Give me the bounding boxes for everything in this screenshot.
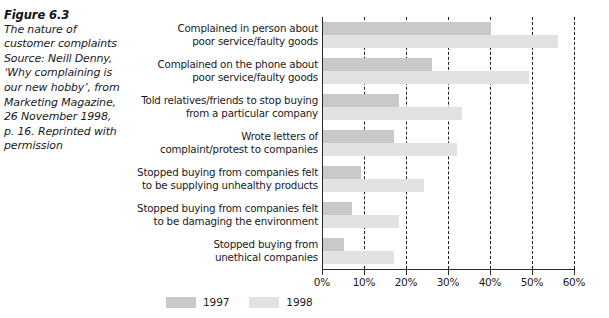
bar-1997 [323, 130, 394, 143]
bar-1998 [323, 251, 394, 264]
category-label-line: Stopped buying from companies felt [137, 166, 318, 179]
bar-1997 [323, 58, 432, 71]
category-label-line: from a particular company [186, 107, 318, 120]
category-label-line: poor service/faulty goods [192, 71, 318, 84]
bar-group [323, 161, 574, 197]
bar-group [323, 233, 574, 269]
x-axis-tick-label: 20% [395, 276, 418, 288]
x-axis-tick [532, 269, 533, 275]
bar-series-container [323, 17, 574, 269]
legend-item-1997: 1997 [166, 296, 229, 308]
category-axis-labels: Complained in person about poor service/… [136, 17, 318, 269]
category-label: Complained on the phone about poor servi… [136, 53, 318, 89]
plot-area [322, 17, 574, 269]
legend-swatch-icon [166, 297, 196, 308]
category-label-line: Told relatives/friends to stop buying [141, 94, 318, 107]
legend-swatch-icon [249, 297, 279, 308]
bar-1997 [323, 94, 399, 107]
category-label-line: poor service/faulty goods [192, 35, 318, 48]
bar-group [323, 125, 574, 161]
x-axis-tick [364, 269, 365, 275]
legend-item-1998: 1998 [249, 296, 312, 308]
bar-1997 [323, 166, 361, 179]
bar-group [323, 17, 574, 53]
x-axis-tick-label: 60% [563, 276, 586, 288]
x-axis-tick [406, 269, 407, 275]
category-label: Stopped buying from companies felt to be… [136, 161, 318, 197]
bar-1998 [323, 215, 399, 228]
category-label-line: Wrote letters of [241, 130, 318, 143]
bar-group [323, 53, 574, 89]
legend-label: 1997 [203, 296, 229, 308]
bar-1997 [323, 22, 491, 35]
gridline [574, 17, 575, 269]
bar-1997 [323, 238, 344, 251]
category-label-line: to be damaging the environment [154, 215, 318, 228]
bar-1998 [323, 107, 462, 120]
category-label-line: Stopped buying from companies felt [137, 202, 318, 215]
figure-container: Figure 6.3 The nature of customer compla… [0, 0, 609, 318]
x-axis-tick-label: 40% [479, 276, 502, 288]
bar-1998 [323, 179, 424, 192]
category-label: Stopped buying from companies felt to be… [136, 197, 318, 233]
bar-1997 [323, 202, 352, 215]
category-label-line: Stopped buying from [213, 238, 318, 251]
bar-group [323, 89, 574, 125]
bar-1998 [323, 35, 558, 48]
bar-1998 [323, 143, 457, 156]
x-axis-tick [574, 269, 575, 275]
x-axis-tick [490, 269, 491, 275]
x-axis-tick-label: 30% [437, 276, 460, 288]
category-label-line: Complained in person about [178, 22, 319, 35]
x-axis-tick-label: 0% [314, 276, 330, 288]
bar-group [323, 197, 574, 233]
x-axis-tick [322, 269, 323, 275]
x-axis-tick-label: 10% [353, 276, 376, 288]
category-label: Stopped buying from unethical companies [136, 233, 318, 269]
category-label: Wrote letters of complaint/protest to co… [136, 125, 318, 161]
category-label-line: to be supplying unhealthy products [142, 179, 318, 192]
category-label-line: unethical companies [215, 251, 318, 264]
chart-legend: 1997 1998 [166, 296, 325, 308]
category-label: Told relatives/friends to stop buying fr… [136, 89, 318, 125]
bar-chart: Complained in person about poor service/… [0, 0, 609, 318]
category-label-line: Complained on the phone about [158, 58, 318, 71]
category-label: Complained in person about poor service/… [136, 17, 318, 53]
x-axis-tick [448, 269, 449, 275]
category-label-line: complaint/protest to companies [160, 143, 318, 156]
x-axis-tick-label: 50% [521, 276, 544, 288]
bar-1998 [323, 71, 529, 84]
legend-label: 1998 [286, 296, 312, 308]
